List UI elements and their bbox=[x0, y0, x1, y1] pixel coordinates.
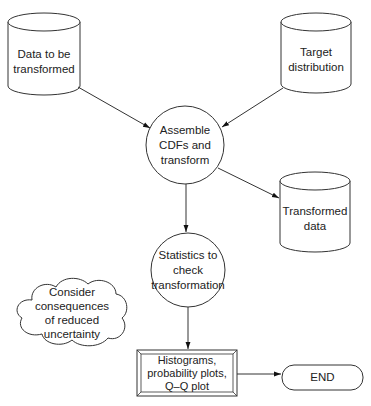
edge-assemble-to-transformed bbox=[218, 168, 279, 198]
label-transformed-data: Transformed data bbox=[280, 201, 350, 237]
label-histograms-plots: Histograms, probability plots, Q–Q plot bbox=[141, 353, 233, 393]
label-assemble-cdfs: Assemble CDFs and transform bbox=[146, 120, 224, 170]
label-target-distribution: Target distribution bbox=[281, 42, 351, 78]
label-data-to-be-transformed: Data to be transformed bbox=[8, 44, 80, 80]
label-consider-consequences: Consider consequences of reduced uncerta… bbox=[20, 282, 124, 344]
label-statistics-check: Statistics to check transformation bbox=[151, 245, 225, 295]
edge-target-to-assemble bbox=[222, 88, 283, 127]
edge-data-to-assemble bbox=[78, 87, 150, 128]
label-end: END bbox=[282, 365, 363, 390]
